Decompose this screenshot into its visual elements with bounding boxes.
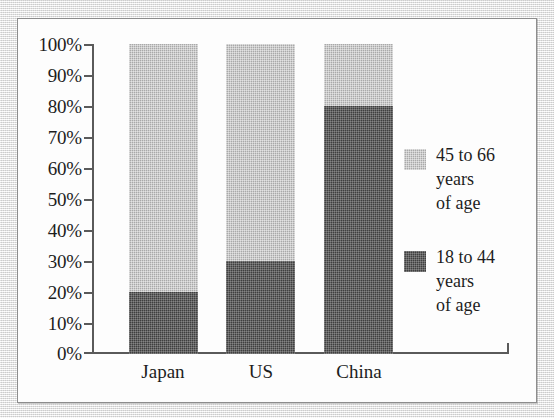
y-tick-100 bbox=[84, 44, 93, 46]
y-tick-30 bbox=[84, 261, 93, 263]
y-axis-label-0: 0% bbox=[20, 344, 82, 363]
legend: 45 to 66 years of age 18 to 44 years of … bbox=[404, 144, 532, 348]
bar-segment-japan-45to66[interactable] bbox=[129, 44, 198, 292]
y-tick-40 bbox=[84, 230, 93, 232]
y-axis-label-80: 80% bbox=[20, 97, 82, 116]
legend-label-45-to-66-line2: years bbox=[436, 168, 532, 192]
legend-label-18-to-44-line3: of age bbox=[436, 294, 532, 318]
y-tick-70 bbox=[84, 137, 93, 139]
y-tick-90 bbox=[84, 75, 93, 77]
legend-swatch-dark bbox=[404, 251, 426, 272]
legend-label-45-to-66-line1: 45 to 66 bbox=[436, 144, 532, 168]
legend-label-45-to-66: 45 to 66 years of age bbox=[436, 144, 532, 216]
legend-entry-18-to-44[interactable]: 18 to 44 years of age bbox=[404, 246, 532, 326]
legend-entry-45-to-66[interactable]: 45 to 66 years of age bbox=[404, 144, 532, 224]
legend-label-45-to-66-line3: of age bbox=[436, 192, 532, 216]
legend-label-18-to-44-line1: 18 to 44 bbox=[436, 246, 532, 270]
bar-segment-us-45to66[interactable] bbox=[226, 44, 295, 261]
x-axis-label-china: China bbox=[299, 362, 419, 381]
y-axis-label-70: 70% bbox=[20, 128, 82, 147]
y-axis-label-50: 50% bbox=[20, 190, 82, 209]
legend-label-18-to-44-line2: years bbox=[436, 270, 532, 294]
y-axis-label-20: 20% bbox=[20, 283, 82, 302]
y-axis-label-100: 100% bbox=[20, 35, 82, 54]
y-axis-label-60: 60% bbox=[20, 159, 82, 178]
y-axis-label-30: 30% bbox=[20, 252, 82, 271]
bar-segment-us-18to44[interactable] bbox=[226, 261, 295, 354]
y-axis-label-10: 10% bbox=[20, 314, 82, 333]
y-tick-80 bbox=[84, 106, 93, 108]
bar-segment-japan-18to44[interactable] bbox=[129, 292, 198, 354]
plot-area: 100% 90% 80% 70% 60% 50% 40% 30% 20% 10%… bbox=[18, 19, 538, 404]
legend-label-18-to-44: 18 to 44 years of age bbox=[436, 246, 532, 318]
y-axis-label-40: 40% bbox=[20, 221, 82, 240]
y-tick-20 bbox=[84, 292, 93, 294]
y-tick-60 bbox=[84, 168, 93, 170]
figure-frame: 100% 90% 80% 70% 60% 50% 40% 30% 20% 10%… bbox=[17, 18, 537, 403]
y-axis-label-90: 90% bbox=[20, 66, 82, 85]
bar-segment-china-18to44[interactable] bbox=[324, 106, 393, 354]
y-tick-10 bbox=[84, 323, 93, 325]
y-tick-50 bbox=[84, 199, 93, 201]
legend-swatch-light bbox=[404, 149, 426, 170]
bar-segment-china-45to66[interactable] bbox=[324, 44, 393, 106]
